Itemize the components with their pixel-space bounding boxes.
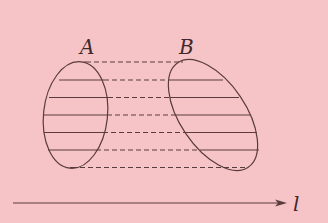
diagram-canvas: A B l [0,0,328,223]
label-b: B [178,35,194,59]
projection-diagram: A B l [0,0,328,223]
axis-label-l: l [293,192,299,216]
label-a: A [78,35,94,59]
